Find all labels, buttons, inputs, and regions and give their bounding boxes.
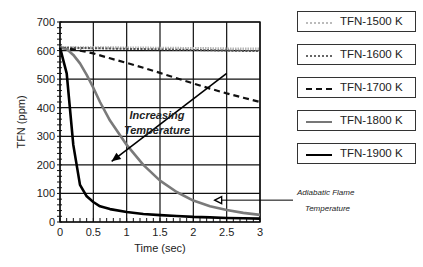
legend-label: TFN-1900 K	[340, 147, 403, 159]
legend-swatch-hatched	[306, 55, 332, 57]
legend-swatch-black	[306, 154, 332, 156]
legend-item-1900k: TFN-1900 K	[297, 143, 416, 164]
pointer-arrow-icon	[215, 197, 222, 204]
adiabatic-line1: Adiabatic Flame	[297, 185, 354, 201]
increasing-line2: Temperature	[112, 123, 202, 138]
y-tick-label: 0	[49, 216, 55, 228]
annotation-arrows	[112, 73, 293, 203]
increasing-temperature-label: Increasing Temperature	[112, 108, 202, 138]
x-tick-label: 0.5	[86, 226, 101, 238]
legend-swatch-gray	[306, 121, 332, 123]
y-tick-label: 100	[37, 187, 55, 199]
y-axis-title: TFN (ppm)	[15, 95, 27, 148]
y-tick-label: 500	[37, 73, 55, 85]
y-tick-label: 600	[37, 45, 55, 57]
legend-item-1800k: TFN-1800 K	[297, 110, 416, 131]
legend-label: TFN-1600 K	[340, 48, 403, 60]
legend-swatch-dashed	[306, 88, 332, 90]
x-tick-label: 2	[190, 226, 196, 238]
x-tick-label: 2.5	[219, 226, 234, 238]
tfn-line-chart: 00.511.522.53 0100200300400500600700 Tim…	[0, 0, 423, 267]
legend-item-1600k: TFN-1600 K	[297, 44, 416, 65]
legend-label: TFN-1800 K	[340, 114, 403, 126]
adiabatic-line2: Temperature	[297, 201, 354, 217]
y-tick-label: 200	[37, 159, 55, 171]
x-axis-title: Time (sec)	[134, 242, 186, 254]
increasing-line1: Increasing	[112, 108, 202, 123]
x-tick-label: 1	[124, 226, 130, 238]
y-tick-labels: 0100200300400500600700	[37, 16, 55, 228]
legend-item-1700k: TFN-1700 K	[297, 77, 416, 98]
x-tick-labels: 00.511.522.53	[57, 226, 263, 238]
y-tick-label: 400	[37, 102, 55, 114]
x-tick-label: 3	[257, 226, 263, 238]
legend-label: TFN-1500 K	[340, 15, 403, 27]
legend-item-1500k: TFN-1500 K	[297, 11, 416, 32]
arrow-head-icon	[112, 153, 122, 162]
x-tick-label: 0	[57, 226, 63, 238]
legend-swatch-hatched-light	[306, 22, 332, 24]
y-tick-label: 700	[37, 16, 55, 28]
adiabatic-flame-label: Adiabatic Flame Temperature	[297, 185, 354, 217]
x-tick-label: 1.5	[152, 226, 167, 238]
legend-label: TFN-1700 K	[340, 81, 403, 93]
y-tick-label: 300	[37, 130, 55, 142]
